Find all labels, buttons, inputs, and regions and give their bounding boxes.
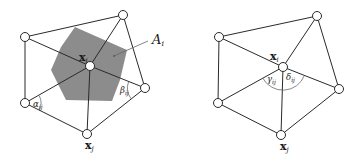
vertex-top-left — [21, 33, 30, 42]
label-xj: xj — [280, 140, 290, 154]
vertex-top-right — [313, 12, 322, 21]
vertex-right — [335, 85, 344, 94]
vertex-bottom-left — [214, 99, 223, 108]
area-leader-dot — [113, 55, 115, 57]
label-delta-ij: δij — [286, 72, 295, 84]
label-xj: xj — [85, 139, 95, 153]
outer-edges — [218, 16, 339, 135]
label-gamma-ij: γij — [267, 74, 276, 86]
right-panel-angles: xi xj γij δij — [214, 12, 344, 155]
label-xi: xi — [270, 50, 279, 64]
spoke-edges — [218, 16, 339, 135]
vertex-right — [141, 84, 150, 93]
vertex-bottom-left — [21, 99, 30, 108]
vertex-bottom-xj — [277, 131, 286, 140]
vertex-center-xi — [279, 63, 288, 72]
vertex-top-left — [215, 33, 224, 42]
vertex-bottom-xj — [83, 130, 92, 139]
left-panel-voronoi-area: xi xj Ai αij βij — [21, 11, 165, 154]
mesh-diagram-figure: xi xj Ai αij βij — [0, 0, 360, 161]
label-area-ai: Ai — [151, 32, 164, 48]
vertex-top-right — [119, 11, 128, 20]
